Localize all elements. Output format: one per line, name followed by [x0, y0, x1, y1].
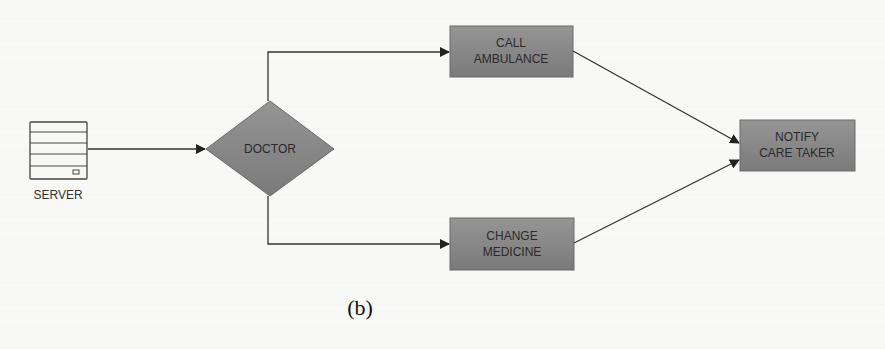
notify-label-line1: NOTIFY [775, 130, 819, 144]
server-label: SERVER [33, 188, 82, 202]
notify-care-taker-node: NOTIFY CARE TAKER [740, 120, 855, 171]
edge-call-ambulance-to-notify [573, 51, 739, 143]
doctor-label: DOCTOR [244, 142, 296, 156]
flow-diagram: SERVER DOCTOR CALL AMBULANCE CHANGE MEDI… [0, 0, 885, 349]
notify-label-line2: CARE TAKER [759, 146, 835, 160]
edge-doctor-to-change-medicine [268, 196, 449, 244]
doctor-node: DOCTOR [206, 101, 334, 196]
edge-change-medicine-to-notify [574, 160, 739, 243]
figure-caption: (b) [320, 295, 400, 321]
change-medicine-label-line2: MEDICINE [483, 245, 542, 259]
change-medicine-label-line1: CHANGE [486, 229, 537, 243]
change-medicine-node: CHANGE MEDICINE [450, 218, 574, 270]
call-ambulance-label-line2: AMBULANCE [474, 52, 549, 66]
call-ambulance-label-line1: CALL [496, 36, 526, 50]
call-ambulance-node: CALL AMBULANCE [450, 26, 573, 77]
edge-doctor-to-call-ambulance [268, 52, 449, 101]
server-icon [30, 122, 87, 179]
